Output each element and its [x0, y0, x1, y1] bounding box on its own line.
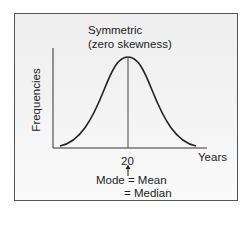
annotation-median: = Median: [124, 188, 172, 200]
x-axis-label: Years: [198, 152, 227, 164]
y-axis-label: Frequencies: [31, 68, 43, 131]
x-tick-center: 20: [121, 156, 134, 168]
annotation-mode-mean: Mode = Mean: [96, 175, 167, 187]
diagram-title-line2: (zero skewness): [88, 39, 172, 51]
diagram-title-line1: Symmetric: [88, 25, 142, 37]
